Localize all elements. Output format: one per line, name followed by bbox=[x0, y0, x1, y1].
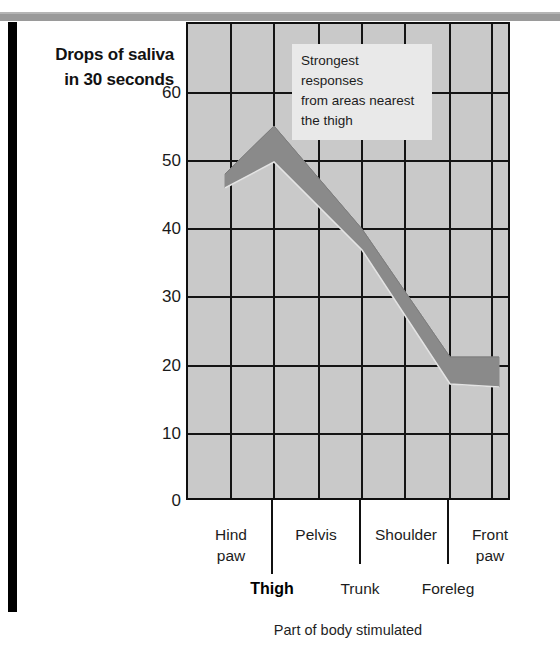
saliva-response-lower-edge bbox=[225, 162, 499, 387]
x-label-front-paw-line2: paw bbox=[455, 545, 525, 566]
x-label-shoulder-line1: Shoulder bbox=[366, 524, 446, 545]
annotation-callout: Strongest responses from areas nearest t… bbox=[292, 44, 432, 140]
x-label-hind-paw-line1: Hind bbox=[196, 524, 266, 545]
annotation-line3: the thigh bbox=[301, 111, 423, 131]
x-label-trunk: Trunk bbox=[325, 580, 395, 598]
y-tick-label-10: 10 bbox=[141, 424, 181, 444]
x-axis-secondary-labels: Thigh Trunk Foreleg bbox=[0, 580, 560, 604]
y-tick-label-50: 50 bbox=[141, 151, 181, 171]
annotation-line2: from areas nearest bbox=[301, 91, 423, 111]
annotation-line1: Strongest responses bbox=[301, 51, 423, 91]
y-axis-title-line1: Drops of saliva bbox=[24, 42, 174, 67]
x-label-thigh: Thigh bbox=[236, 580, 308, 598]
x-label-pelvis: Pelvis bbox=[281, 524, 351, 545]
x-label-shoulder: Shoulder bbox=[366, 524, 446, 545]
x-axis-primary-labels: Hind paw Pelvis Shoulder Front paw bbox=[0, 524, 560, 570]
y-tick-label-30: 30 bbox=[141, 287, 181, 307]
x-label-hind-paw-line2: paw bbox=[196, 545, 266, 566]
x-label-front-paw-line1: Front bbox=[455, 524, 525, 545]
y-tick-label-60: 60 bbox=[141, 83, 181, 103]
x-label-hind-paw: Hind paw bbox=[196, 524, 266, 566]
x-label-pelvis-line1: Pelvis bbox=[281, 524, 351, 545]
x-label-front-paw: Front paw bbox=[455, 524, 525, 566]
chart-page: Drops of saliva in 30 seconds 60 50 40 3… bbox=[0, 0, 560, 672]
saliva-response-band bbox=[225, 126, 499, 387]
y-tick-label-0: 0 bbox=[141, 491, 181, 511]
top-decorative-band-highlight bbox=[0, 12, 560, 14]
y-tick-label-20: 20 bbox=[141, 356, 181, 376]
x-label-foreleg: Foreleg bbox=[411, 580, 485, 598]
x-axis-title: Part of body stimulated bbox=[186, 622, 510, 638]
y-tick-label-40: 40 bbox=[141, 219, 181, 239]
